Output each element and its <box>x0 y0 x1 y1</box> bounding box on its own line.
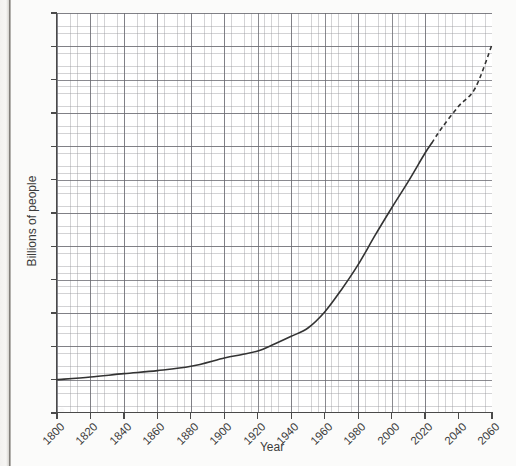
x-tick-mark <box>90 413 91 419</box>
x-tick-label: 1880 <box>175 421 201 447</box>
population-growth-chart: 0123456789101112 18001820184018601880190… <box>0 0 516 466</box>
x-tick-mark <box>56 413 57 419</box>
line-projected <box>432 45 492 143</box>
line-historical <box>57 143 432 380</box>
x-tick-mark <box>291 413 292 419</box>
x-axis-label: Year <box>232 440 312 454</box>
x-tick-label: 1800 <box>41 421 67 447</box>
data-series-layer <box>57 13 492 413</box>
x-tick-label: 2060 <box>476 421 502 447</box>
x-tick-label: 2020 <box>409 421 435 447</box>
x-tick-label: 1960 <box>309 421 335 447</box>
x-tick-mark <box>358 413 359 419</box>
x-tick-mark <box>391 413 392 419</box>
x-tick-mark <box>424 413 425 419</box>
y-axis-label: Billions of people <box>25 141 39 301</box>
x-tick-label: 1900 <box>208 421 234 447</box>
x-tick-mark <box>157 413 158 419</box>
x-tick-mark <box>190 413 191 419</box>
x-tick-label: 1980 <box>342 421 368 447</box>
x-tick-mark <box>257 413 258 419</box>
x-tick-mark <box>491 413 492 419</box>
x-tick-label: 2000 <box>376 421 402 447</box>
x-tick-label: 2040 <box>442 421 468 447</box>
x-tick-mark <box>324 413 325 419</box>
x-tick-mark <box>458 413 459 419</box>
x-tick-mark <box>224 413 225 419</box>
x-tick-mark <box>123 413 124 419</box>
x-tick-label: 1860 <box>141 421 167 447</box>
x-tick-label: 1840 <box>108 421 134 447</box>
x-tick-label: 1820 <box>74 421 100 447</box>
